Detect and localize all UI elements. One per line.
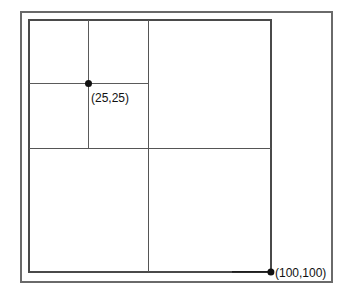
quadtree-figure: (25,25) (100,100) bbox=[0, 0, 352, 303]
point-25-25-label: (25,25) bbox=[91, 91, 129, 105]
root-cell-border bbox=[29, 20, 271, 272]
point-100-100-label: (100,100) bbox=[275, 266, 326, 280]
point-25-25-marker bbox=[85, 80, 92, 87]
quadtree-svg-canvas: (25,25) (100,100) bbox=[0, 0, 352, 303]
point-100-100-marker bbox=[267, 268, 274, 275]
